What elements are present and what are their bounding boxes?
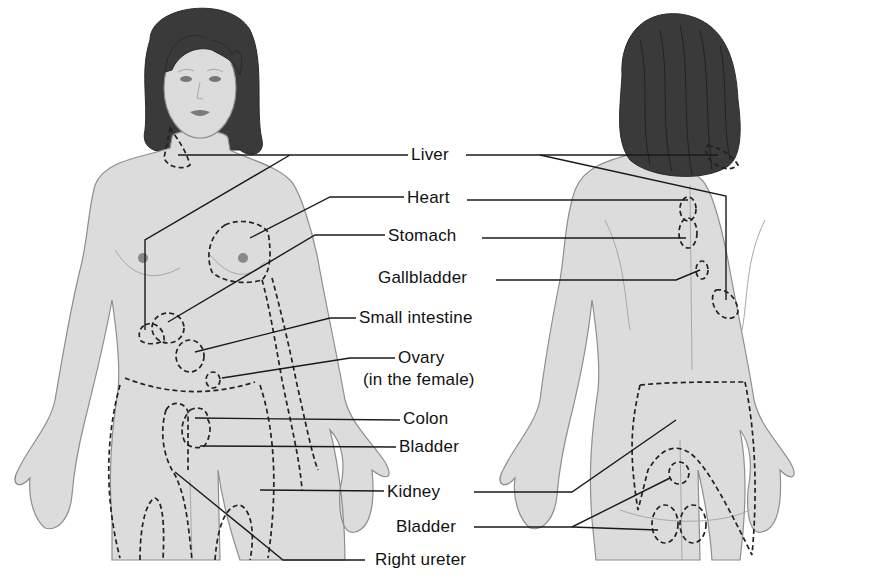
label-stomach: Stomach: [385, 226, 460, 246]
label-ovary-note: (in the female): [360, 370, 478, 390]
referred-pain-diagram: Liver Heart Stomach Gallbladder Small in…: [0, 0, 871, 583]
label-gallbladder: Gallbladder: [375, 268, 470, 288]
label-liver: Liver: [408, 145, 452, 165]
left-eye: [180, 76, 192, 82]
right-nipple: [238, 253, 248, 263]
back-body: [500, 150, 794, 560]
label-heart: Heart: [404, 188, 453, 208]
label-small-intestine: Small intestine: [356, 308, 476, 328]
front-figure: [15, 8, 389, 560]
back-figure: [500, 14, 794, 560]
label-ovary: Ovary: [395, 348, 447, 368]
front-body: [15, 131, 389, 561]
kidney-leader-front: [260, 490, 384, 491]
label-bladder-back: Bladder: [393, 517, 459, 537]
label-kidney: Kidney: [384, 482, 443, 502]
label-right-ureter: Right ureter: [372, 550, 469, 570]
back-hair: [620, 14, 741, 177]
label-colon: Colon: [400, 409, 451, 429]
label-bladder-front: Bladder: [396, 437, 462, 457]
right-eye: [209, 76, 221, 82]
left-nipple: [138, 253, 148, 263]
